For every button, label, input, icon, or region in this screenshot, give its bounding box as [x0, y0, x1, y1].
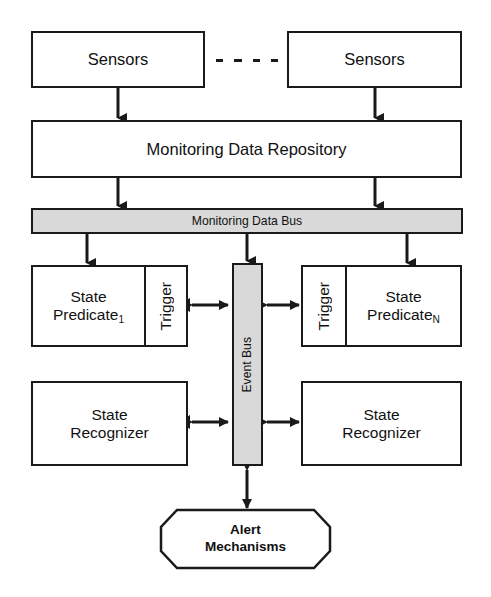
node-state-predicate-n-group[interactable]: Trigger State PredicateN	[301, 265, 462, 347]
state-predicate-1-cell[interactable]: State Predicate1	[33, 267, 146, 345]
state-predicate-1-subscript: 1	[118, 314, 124, 325]
event-bus-label: Event Bus	[240, 337, 254, 393]
node-alert-mechanisms[interactable]: Alert Mechanisms	[161, 510, 330, 568]
node-monitoring-data-bus[interactable]: Monitoring Data Bus	[31, 208, 463, 234]
node-monitoring-data-repository[interactable]: Monitoring Data Repository	[31, 120, 462, 178]
state-recognizer-left-label: State Recognizer	[70, 406, 148, 442]
ellipsis-dash	[216, 59, 223, 62]
ellipsis-dash	[253, 59, 260, 62]
state-predicate-n-subscript: N	[433, 314, 440, 325]
trigger-left-label: Trigger	[157, 282, 175, 331]
sensors-right-label: Sensors	[344, 50, 405, 69]
ellipsis-dash	[234, 59, 241, 62]
repository-label: Monitoring Data Repository	[147, 140, 347, 159]
sensors-ellipsis	[216, 57, 278, 63]
architecture-diagram: Sensors Sensors Monitoring Data Reposito…	[0, 0, 491, 597]
node-state-recognizer-left[interactable]: State Recognizer	[31, 381, 188, 466]
state-predicate-n-label: State PredicateN	[367, 288, 440, 324]
state-recognizer-right-label: State Recognizer	[342, 406, 420, 442]
node-event-bus[interactable]: Event Bus	[232, 263, 263, 466]
sensors-left-label: Sensors	[88, 50, 149, 69]
trigger-left-cell[interactable]: Trigger	[146, 267, 186, 345]
state-predicate-n-cell[interactable]: State PredicateN	[347, 267, 460, 345]
node-sensors-left[interactable]: Sensors	[31, 31, 205, 88]
state-predicate-1-text: State Predicate	[53, 288, 118, 323]
ellipsis-dash	[271, 59, 278, 62]
node-state-predicate-1-group[interactable]: State Predicate1 Trigger	[31, 265, 188, 347]
monitoring-data-bus-label: Monitoring Data Bus	[192, 214, 302, 228]
alert-mechanisms-label: Alert Mechanisms	[205, 522, 286, 556]
node-sensors-right[interactable]: Sensors	[287, 31, 462, 88]
node-state-recognizer-right[interactable]: State Recognizer	[301, 381, 462, 466]
state-predicate-1-label: State Predicate1	[53, 288, 124, 324]
trigger-right-label: Trigger	[315, 282, 333, 331]
trigger-right-cell[interactable]: Trigger	[303, 267, 347, 345]
state-predicate-n-text: State Predicate	[367, 288, 432, 323]
